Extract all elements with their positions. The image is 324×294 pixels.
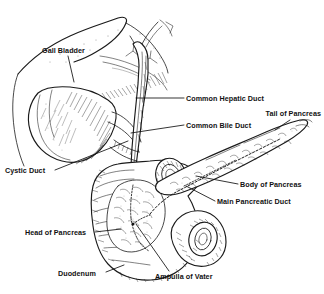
label-duodenum: Duodenum <box>58 269 96 278</box>
label-cystic-duct: Cystic Duct <box>5 166 46 175</box>
label-common-hepatic-duct: Common Hepatic Duct <box>186 94 265 103</box>
label-main-pancreatic-duct: Main Pancreatic Duct <box>217 197 291 206</box>
anatomy-figure: Gall Bladder Common Hepatic Duct Common … <box>0 0 324 294</box>
label-head-of-pancreas: Head of Pancreas <box>25 228 86 237</box>
label-body-of-pancreas: Body of Pancreas <box>240 180 302 189</box>
label-gall-bladder: Gall Bladder <box>42 46 85 55</box>
label-tail-of-pancreas: Tail of Pancreas <box>266 109 321 118</box>
label-ampulla-of-vater: Ampulla of Vater <box>155 272 213 281</box>
label-common-bile-duct: Common Bile Duct <box>186 121 252 130</box>
anatomy-illustration: Gall Bladder Common Hepatic Duct Common … <box>0 0 324 294</box>
